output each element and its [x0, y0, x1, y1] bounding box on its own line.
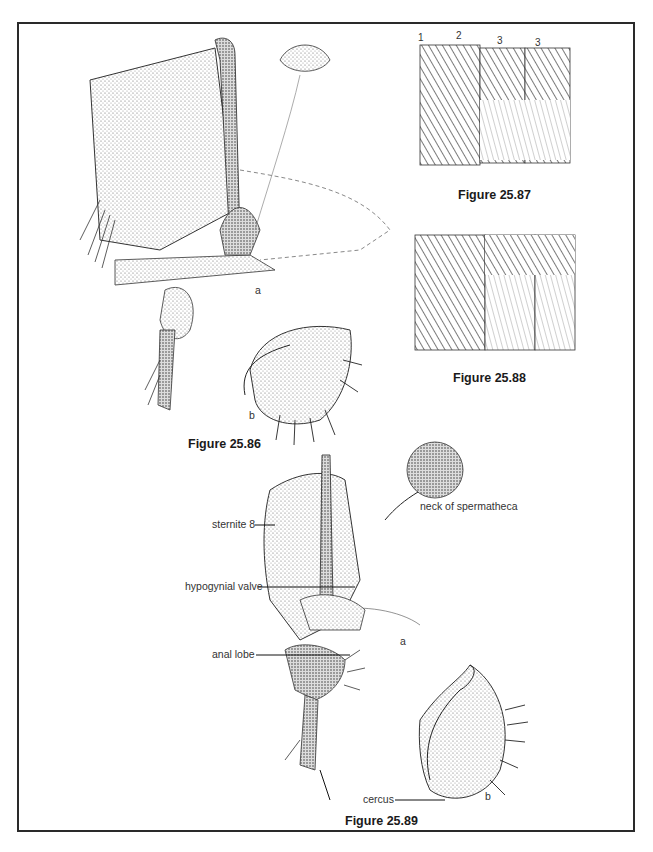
- label-sternite-8: sternite 8: [212, 518, 255, 530]
- label-anal-lobe: anal lobe: [212, 648, 255, 660]
- part-label-b: b: [485, 790, 491, 802]
- part-label-a: a: [255, 284, 261, 296]
- figure-25-87-drawing: [420, 45, 570, 165]
- label-hypogynial-valve: hypogynial valve: [185, 580, 263, 592]
- figure-25-88-drawing: [415, 235, 575, 350]
- figure-caption: Figure 25.86: [188, 437, 261, 451]
- leader-cercus-a: [320, 770, 330, 800]
- part-label-b: b: [249, 409, 255, 421]
- label-cercus: cercus: [363, 793, 394, 805]
- illustrations: [0, 0, 653, 852]
- figure-caption: Figure 25.87: [458, 188, 531, 202]
- part-label-a: a: [400, 635, 406, 647]
- segment-number: 3: [497, 35, 503, 46]
- segment-number: 2: [456, 30, 462, 41]
- figure-25-86b-drawing: [244, 326, 362, 445]
- figure-caption: Figure 25.89: [345, 814, 418, 828]
- segment-number: 3: [535, 37, 541, 48]
- segment-number: 1: [418, 32, 424, 43]
- label-neck-of-spermatheca: neck of spermatheca: [420, 500, 517, 512]
- figure-caption: Figure 25.88: [453, 371, 526, 385]
- figure-25-89b-drawing: [419, 665, 528, 798]
